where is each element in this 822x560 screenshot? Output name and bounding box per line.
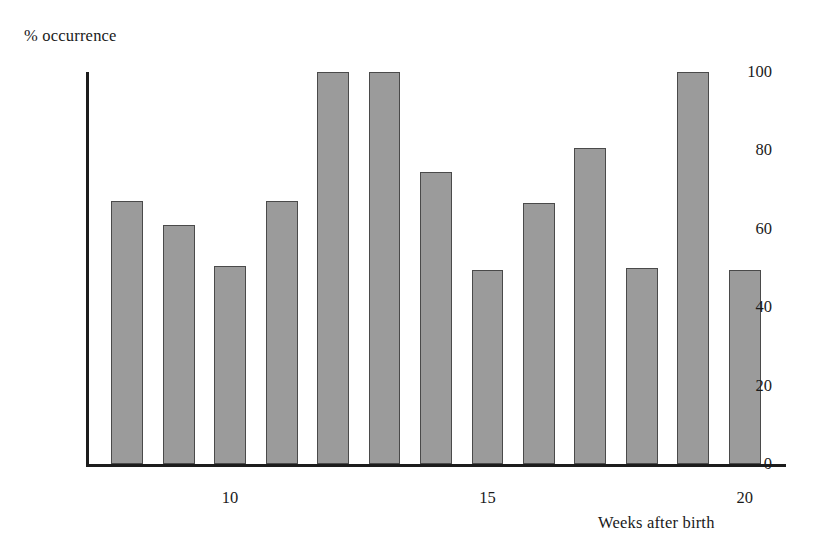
bar xyxy=(369,72,401,464)
y-tick-label: 60 xyxy=(756,221,773,238)
bar xyxy=(626,268,658,464)
y-axis-title: % occurrence xyxy=(24,26,117,46)
bar xyxy=(472,270,504,464)
bar xyxy=(523,203,555,464)
y-tick-label: 0 xyxy=(764,456,772,473)
y-tick-label: 80 xyxy=(756,142,773,159)
x-axis-line xyxy=(86,464,786,467)
y-tick-label: 100 xyxy=(747,64,772,81)
bar xyxy=(266,201,298,464)
bar xyxy=(574,148,606,464)
x-axis-title: Weeks after birth xyxy=(598,513,715,533)
bar xyxy=(214,266,246,464)
y-tick-label: 40 xyxy=(756,299,773,316)
bar xyxy=(111,201,143,464)
bar xyxy=(317,72,349,464)
bar xyxy=(163,225,195,464)
bar-group xyxy=(86,72,786,464)
bar xyxy=(677,72,709,464)
plot-area: 020406080100 101520 xyxy=(86,72,786,464)
bar-chart-figure: % occurrence 020406080100 101520 Weeks a… xyxy=(0,0,822,560)
y-tick-label: 20 xyxy=(756,377,773,394)
bar xyxy=(420,172,452,464)
